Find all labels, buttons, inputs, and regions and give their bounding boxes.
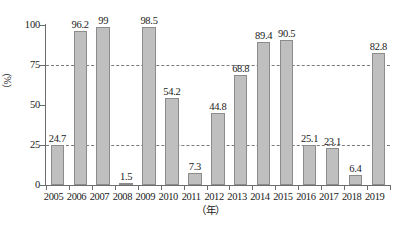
bar[interactable]: [372, 53, 385, 185]
bar[interactable]: [165, 98, 178, 185]
x-tick: [138, 186, 139, 190]
bar[interactable]: [303, 145, 316, 185]
bar-value-label: 24.7: [49, 133, 66, 144]
y-tick-label-50: 50: [10, 100, 40, 110]
bar-value-label: 7.3: [189, 161, 201, 172]
bar-value-label: 44.8: [209, 101, 226, 112]
bar-slot: 24.7: [46, 25, 69, 185]
bar-slot: 96.2: [69, 25, 92, 185]
bar-slot: 90.5: [275, 25, 298, 185]
bar[interactable]: [211, 113, 224, 185]
bar-chart: （%） 0255075100 24.796.2991.598.554.27.34…: [0, 0, 396, 231]
x-tick: [69, 186, 70, 190]
bar-value-label: 99: [98, 15, 108, 26]
x-tick: [344, 186, 345, 190]
x-tick: [321, 186, 322, 190]
x-tick: [161, 186, 162, 190]
bar-slot: 23.1: [321, 25, 344, 185]
bar[interactable]: [280, 40, 293, 185]
bar-value-label: 89.4: [255, 30, 272, 41]
bar-value-label: 6.4: [349, 163, 361, 174]
x-tick: [92, 186, 93, 190]
bar-slot: 98.5: [138, 25, 161, 185]
bar-slot: 99: [92, 25, 115, 185]
bar-slot: 82.8: [367, 25, 390, 185]
x-tick: [207, 186, 208, 190]
x-tick: [298, 186, 299, 190]
bar[interactable]: [74, 31, 87, 185]
bar-value-label: 98.5: [140, 15, 157, 26]
x-axis-title: （年）: [196, 205, 225, 217]
x-tick: [390, 186, 391, 190]
y-axis-title: （%）: [3, 67, 13, 94]
bar-slot: 6.4: [344, 25, 367, 185]
bar[interactable]: [51, 145, 64, 185]
bar[interactable]: [349, 175, 362, 185]
bar[interactable]: [188, 173, 201, 185]
bar[interactable]: [234, 75, 247, 185]
x-tick: [229, 186, 230, 190]
x-tick: [367, 186, 368, 190]
bar-slot: 1.5: [115, 25, 138, 185]
bar-slot: 25.1: [298, 25, 321, 185]
bar-slot: 68.8: [229, 25, 252, 185]
x-tick: [252, 186, 253, 190]
bar[interactable]: [119, 183, 132, 185]
x-tick: [115, 186, 116, 190]
bar-value-label: 1.5: [120, 171, 132, 182]
x-tick: [275, 186, 276, 190]
x-tick: [46, 186, 47, 190]
y-tick-label-0: 0: [10, 180, 40, 190]
bar-slot: 54.2: [161, 25, 184, 185]
bar-value-label: 68.8: [232, 63, 249, 74]
x-axis-line: [45, 185, 391, 186]
bar-slot: 44.8: [207, 25, 230, 185]
bar-value-label: 90.5: [278, 28, 295, 39]
bar-value-label: 54.2: [163, 86, 180, 97]
bar-slot: 89.4: [252, 25, 275, 185]
x-label-2019: 2019: [360, 191, 390, 203]
y-tick-label-100: 100: [10, 20, 40, 30]
bar-value-label: 25.1: [301, 133, 318, 144]
y-tick-label-25: 25: [10, 140, 40, 150]
bar[interactable]: [326, 148, 339, 185]
bar-slot: 7.3: [184, 25, 207, 185]
plot-area: 24.796.2991.598.554.27.344.868.889.490.5…: [46, 25, 390, 185]
bar-value-label: 82.8: [370, 41, 387, 52]
bar[interactable]: [96, 27, 109, 185]
bar[interactable]: [142, 27, 155, 185]
y-tick-label-75: 75: [10, 60, 40, 70]
bar-value-label: 23.1: [324, 136, 341, 147]
x-tick: [184, 186, 185, 190]
bar-value-label: 96.2: [72, 19, 89, 30]
bar[interactable]: [257, 42, 270, 185]
